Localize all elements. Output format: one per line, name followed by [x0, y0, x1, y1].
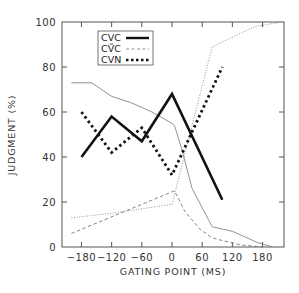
x-tick-label: 60	[195, 252, 209, 263]
x-tick-label: 0	[169, 252, 176, 263]
legend: CVC CṼC CVN	[98, 31, 153, 65]
y-axis-ticks: 020406080100	[35, 17, 284, 253]
x-tick-label: −120	[97, 252, 126, 263]
judgment-chart: 020406080100 −180−120−60060120180 CVC CV…	[0, 0, 299, 293]
x-tick-label: 120	[222, 252, 243, 263]
x-tick-label: 180	[252, 252, 273, 263]
x-axis-label: GATING POINT (MS)	[120, 266, 226, 277]
series-line-cv-c	[71, 191, 262, 247]
y-tick-label: 100	[35, 17, 56, 28]
plot-frame	[62, 22, 284, 247]
y-tick-label: 0	[49, 242, 56, 253]
y-tick-label: 20	[42, 197, 56, 208]
y-tick-label: 80	[42, 62, 56, 73]
legend-label-cvn: CVN	[101, 54, 121, 65]
x-tick-label: −60	[131, 252, 154, 263]
legend-label-cvc: CVC	[101, 32, 121, 43]
series-line-cvn	[82, 67, 223, 175]
series-line-unlabeled-thin-solid	[71, 83, 272, 247]
x-tick-label: −180	[67, 252, 96, 263]
y-tick-label: 40	[42, 152, 56, 163]
y-axis-label: JUDGMENT (%)	[6, 95, 17, 177]
legend-label-cvnc: CṼC	[101, 43, 121, 54]
y-tick-label: 60	[42, 107, 56, 118]
